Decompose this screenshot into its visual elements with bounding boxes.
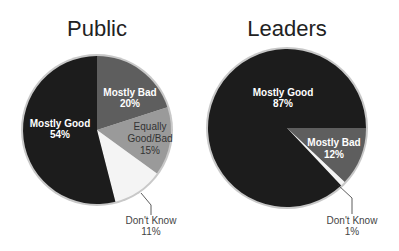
public-mostly-bad-label: Mostly Bad	[103, 87, 156, 98]
public-equally-label-1: Equally	[134, 121, 167, 132]
leaders-dont-know-leader-line	[338, 185, 352, 214]
public-mostly-good-label: Mostly Good	[30, 118, 91, 129]
public-dont-know-leader-line	[141, 193, 151, 215]
leaders-mostly-good-label: Mostly Good	[253, 87, 314, 98]
public-equally-pct: 15%	[140, 145, 160, 156]
public-title: Public	[67, 16, 127, 41]
public-equally-label-2: Good/Bad	[127, 133, 172, 144]
leaders-mostly-good-pct: 87%	[273, 98, 293, 109]
public-mostly-good-pct: 54%	[50, 129, 70, 140]
public-dont-know-label: Don't Know	[126, 215, 178, 226]
leaders-dont-know-pct: 1%	[345, 226, 360, 237]
leaders-mostly-bad-label: Mostly Bad	[307, 137, 360, 148]
leaders-mostly-bad-pct: 12%	[324, 149, 344, 160]
pie-charts: Public Mostly Bad 20% Equally Good/Bad 1…	[0, 0, 399, 251]
leaders-title: Leaders	[247, 16, 327, 41]
leaders-pie	[206, 47, 368, 209]
public-mostly-bad-pct: 20%	[120, 98, 140, 109]
leaders-dont-know-label: Don't Know	[327, 215, 379, 226]
public-dont-know-pct: 11%	[141, 226, 160, 237]
